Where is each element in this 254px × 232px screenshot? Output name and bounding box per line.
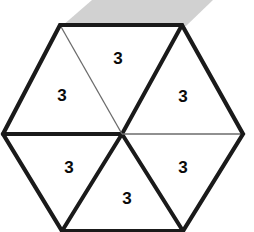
label-triangle-lower-left: 3	[64, 159, 73, 176]
label-triangle-bottom: 3	[122, 190, 131, 207]
label-triangle-lower-right: 3	[178, 159, 187, 176]
label-triangle-top: 3	[113, 50, 122, 67]
label-triangle-upper-right: 3	[178, 88, 187, 105]
figure-canvas: 3 3 3 3 3 3	[0, 0, 254, 232]
label-triangle-upper-left: 3	[57, 87, 66, 104]
